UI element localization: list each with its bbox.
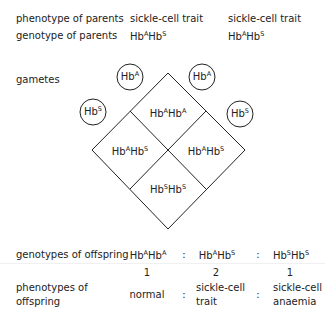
allele-base: Hb [130,146,144,157]
allele-sup: S [144,145,148,153]
allele-sup: S [98,105,102,113]
allele-base: Hb [273,250,287,261]
allele-base: Hb [291,250,305,261]
allele-base: Hb [188,146,202,157]
allele-sup: A [202,145,206,153]
offspring-genotype-2: HbAHbS [199,250,235,263]
gamete-right: HbS [231,108,249,121]
allele-base: Hb [84,106,98,117]
ratio-1: 1 [144,267,150,279]
allele-sup: A [144,249,148,257]
allele-sup: A [126,145,130,153]
punnett-cell-left: HbAHbS [112,146,148,159]
punnett-cell-right: HbAHbS [188,146,224,159]
allele-base: Hb [150,184,164,195]
allele-base: Hb [193,71,207,82]
allele-sup: S [220,145,224,153]
offspring-phenotype-2-line2: trait [196,296,217,308]
separator: : [256,249,259,261]
allele-base: Hb [231,108,245,119]
offspring-phenotype-3-line1: sickle-cell [273,282,322,294]
divider-line [0,263,325,264]
allele-base: Hb [130,250,144,261]
allele-sup: A [164,107,168,115]
allele-sup: A [207,70,211,78]
punnett-cell-bottom: HbSHbS [150,184,186,197]
ratio-2: 2 [213,267,219,279]
allele-base: Hb [168,108,182,119]
allele-base: Hb [148,250,162,261]
phenotypes-of-offspring-label-line1: phenotypes of [16,282,88,294]
separator: : [182,249,185,261]
gamete-top-left: HbA [121,71,139,84]
separator: : [256,289,259,301]
allele-sup: S [305,249,309,257]
ratio-3: 1 [287,267,293,279]
allele-base: Hb [199,250,213,261]
offspring-genotype-1: HbAHbA [130,250,167,263]
allele-sup: S [231,249,235,257]
allele-sup: S [245,107,249,115]
allele-base: Hb [206,146,220,157]
gamete-left: HbS [84,106,102,119]
offspring-phenotype-3-line2: anaemia [273,296,316,308]
allele-sup: A [162,249,166,257]
allele-sup: S [182,183,186,191]
allele-base: Hb [168,184,182,195]
offspring-phenotype-2-line1: sickle-cell [196,282,245,294]
offspring-genotype-3: HbSHbS [273,250,309,263]
allele-sup: S [164,183,168,191]
gamete-top-right: HbA [193,71,211,84]
offspring-phenotype-1: normal [129,289,164,301]
punnett-diamond [0,0,325,318]
allele-base: Hb [217,250,231,261]
allele-base: Hb [121,71,135,82]
allele-base: Hb [112,146,126,157]
allele-sup: S [287,249,291,257]
phenotypes-of-offspring-label-line2: offspring [16,296,60,308]
separator: : [182,289,185,301]
allele-sup: A [135,70,139,78]
allele-sup: A [182,107,186,115]
allele-sup: A [213,249,217,257]
punnett-cell-top: HbAHbA [150,108,187,121]
genotypes-of-offspring-label: genotypes of offspring [16,249,129,261]
allele-base: Hb [150,108,164,119]
